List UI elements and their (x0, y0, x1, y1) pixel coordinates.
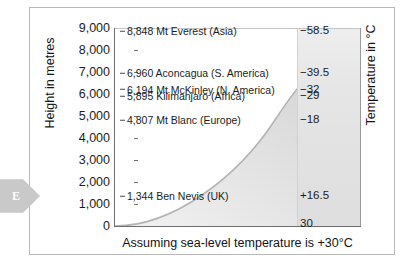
y-tick-mark (134, 226, 138, 227)
y-tick-label: 6,000 (56, 88, 110, 101)
peak-annotation-label: 8,848 Mt Everest (Asia) (127, 25, 237, 37)
peak-annotation: 5,895 Kilimanjaro (Africa) (120, 91, 245, 102)
y-tick-label: 0 (56, 220, 110, 233)
peak-annotation-label: 4,807 Mt Blanc (Europe) (127, 114, 241, 126)
peak-annotation: 6,960 Aconcagua (S. America) (120, 68, 269, 79)
y-tick-label: 1,000 (56, 198, 110, 211)
edge-marker-letter: E (0, 176, 32, 216)
y-tick-mark (134, 138, 138, 139)
leader-line (120, 120, 125, 121)
chart-card: Height in metres 01,0002,0003,0004,0005,… (29, 7, 395, 255)
x-axis-line (114, 226, 361, 227)
leader-line (120, 96, 125, 97)
temperature-label: −39.5 (300, 67, 329, 79)
x-axis-caption: Assuming sea-level temperature is +30°C (114, 236, 361, 250)
y-tick-label: 9,000 (56, 22, 110, 35)
y-tick-label: 2,000 (56, 176, 110, 189)
leader-line (120, 72, 125, 73)
peak-annotation-label: 1,344 Ben Nevis (UK) (127, 190, 229, 202)
y-tick-label: 8,000 (56, 44, 110, 57)
leader-line (120, 196, 125, 197)
y-tick-mark (134, 160, 138, 161)
leader-line (120, 89, 125, 90)
peak-annotation-label: 6,960 Aconcagua (S. America) (127, 67, 269, 79)
y-tick-mark (134, 204, 138, 205)
temperature-label: 30 (300, 218, 313, 230)
y-tick-label: 3,000 (56, 154, 110, 167)
y-tick-label: 5,000 (56, 110, 110, 123)
secondary-y-axis-title: Temperature in °C (364, 10, 378, 140)
plot-right-border (360, 28, 361, 227)
y-tick-mark (134, 182, 138, 183)
y-axis-ticks: 01,0002,0003,0004,0005,0006,0007,0008,00… (54, 8, 110, 264)
peak-annotation-label: 5,895 Kilimanjaro (Africa) (127, 90, 245, 102)
temperature-label: −29 (300, 91, 320, 103)
page-edge-marker: E (0, 176, 40, 216)
temperature-label: +16.5 (300, 191, 329, 203)
y-tick-label: 7,000 (56, 66, 110, 79)
peak-annotation: 1,344 Ben Nevis (UK) (120, 191, 229, 202)
y-tick-mark (134, 50, 138, 51)
leader-line (120, 31, 125, 32)
peak-annotation: 8,848 Mt Everest (Asia) (120, 26, 237, 37)
peak-annotation: 4,807 Mt Blanc (Europe) (120, 115, 241, 126)
y-axis-line (114, 28, 115, 227)
y-tick-label: 4,000 (56, 132, 110, 145)
temperature-label: −58.5 (300, 26, 329, 38)
temperature-label: −18 (300, 114, 320, 126)
